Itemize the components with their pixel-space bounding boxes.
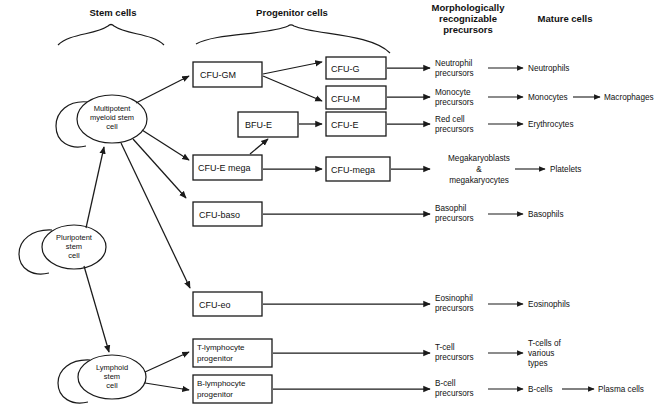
label-monocytes: Monocytes: [528, 93, 568, 102]
column-header-stem-cells: Stem cells: [90, 7, 137, 18]
label-b-cell-precursors-line1: B-cell: [435, 379, 456, 388]
label-neutrophils: Neutrophils: [528, 64, 569, 73]
label-plasma-cells: Plasma cells: [598, 385, 644, 394]
label-b-progenitor-line2: progenitor: [197, 390, 233, 399]
label-megakaryoblasts-line3: megakaryocytes: [449, 176, 509, 185]
edge-multipotent-to-cfu-e-mega: [142, 130, 189, 160]
label-pluripotent-line2: stem: [66, 242, 82, 251]
label-erythrocytes: Erythrocytes: [528, 120, 574, 129]
haematopoiesis-diagram: Stem cells Progenitor cells Morphologica…: [0, 0, 667, 420]
label-basophils: Basophils: [528, 210, 564, 219]
label-megakaryoblasts-line2: &: [476, 165, 482, 174]
brace-progenitor-cells: [196, 25, 390, 53]
label-eosinophils: Eosinophils: [528, 300, 570, 309]
label-basophil-precursors-line2: precursors: [435, 214, 474, 223]
label-b-cells: B-cells: [528, 385, 553, 394]
label-megakaryoblasts-line1: Megakaryoblasts: [448, 154, 510, 163]
label-neutrophil-precursors-line2: precursors: [435, 69, 474, 78]
edge-pluripotent-to-multipotent: [86, 147, 104, 228]
edge-cfu-gm-to-cfu-g: [263, 62, 322, 74]
label-cfu-e: CFU-E: [331, 120, 359, 130]
label-t-cells-line1: T-cells of: [528, 339, 561, 348]
label-t-cell-precursors-line1: T-cell: [435, 343, 455, 352]
column-header-mature-cells: Mature cells: [538, 13, 593, 24]
label-cfu-baso: CFU-baso: [199, 210, 240, 220]
label-b-progenitor-line1: B-lymphocyte: [197, 379, 246, 388]
edge-multipotent-to-cfu-baso: [133, 139, 186, 198]
label-t-progenitor-line1: T-lymphocyte: [197, 343, 245, 352]
edge-pluripotent-to-lymphoid: [84, 266, 109, 352]
label-bfu-e: BFU-E: [245, 120, 272, 130]
edge-lymphoid-to-b-progenitor: [145, 383, 189, 390]
label-macrophages: Macrophages: [604, 93, 654, 102]
edge-cfu-e-mega-to-bfu-e: [250, 139, 268, 154]
label-eosinophil-precursors-line2: precursors: [435, 304, 474, 313]
label-cfu-m: CFU-M: [331, 94, 360, 104]
edge-cfu-gm-to-cfu-m: [263, 76, 322, 101]
column-header-precursors-line1: Morphologically: [432, 2, 506, 13]
label-cfu-e-mega: CFU-E mega: [198, 163, 251, 173]
label-monocyte-precursors-line1: Monocyte: [435, 88, 471, 97]
label-eosinophil-precursors-line1: Eosinophil: [435, 294, 473, 303]
label-cfu-mega: CFU-mega: [331, 165, 375, 175]
brace-stem-cells: [58, 25, 164, 46]
label-cfu-gm: CFU-GM: [200, 70, 236, 80]
label-red-cell-precursors-line2: precursors: [435, 125, 474, 134]
label-platelets: Platelets: [550, 165, 581, 174]
label-cfu-eo: CFU-eo: [199, 300, 231, 310]
label-monocyte-precursors-line2: precursors: [435, 98, 474, 107]
label-lymphoid-line1: Lymphoid: [96, 363, 128, 372]
column-header-precursors-line2: recognizable: [439, 13, 497, 24]
label-t-progenitor-line2: progenitor: [197, 354, 233, 363]
label-multipotent-line3: cell: [106, 122, 118, 131]
label-t-cell-precursors-line2: precursors: [435, 353, 474, 362]
label-neutrophil-precursors-line1: Neutrophil: [435, 59, 473, 68]
label-t-cells-line3: types: [528, 359, 548, 368]
edge-lymphoid-to-t-progenitor: [145, 352, 189, 372]
label-cfu-g: CFU-G: [331, 64, 360, 74]
label-pluripotent-line1: Pluripotent: [56, 233, 93, 242]
diagram-canvas: Stem cells Progenitor cells Morphologica…: [0, 0, 667, 420]
label-multipotent-line2: myeloid stem: [90, 113, 134, 122]
label-pluripotent-line3: cell: [68, 251, 80, 260]
label-multipotent-line1: Multipotent: [94, 104, 132, 113]
label-lymphoid-line2: stem: [104, 372, 120, 381]
column-header-precursors-line3: precursors: [443, 24, 493, 35]
column-header-progenitor-cells: Progenitor cells: [256, 7, 328, 18]
edge-multipotent-to-cfu-gm: [136, 76, 189, 103]
label-b-cell-precursors-line2: precursors: [435, 389, 474, 398]
label-t-cells-line2: various: [528, 349, 554, 358]
label-basophil-precursors-line1: Basophil: [435, 204, 467, 213]
label-red-cell-precursors-line1: Red cell: [435, 115, 465, 124]
label-lymphoid-line3: cell: [106, 381, 118, 390]
